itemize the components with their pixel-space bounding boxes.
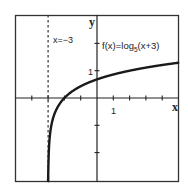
x-axis-label: x [172, 100, 178, 114]
function-label-arg: (x+3) [138, 40, 160, 51]
function-label: f(x)=log5(x+3) [102, 40, 160, 53]
x-tick-label-1: 1 [111, 106, 116, 116]
log-function-graph: y x 1 1 x=−3 f(x)=log5(x+3) [0, 0, 188, 191]
function-curve [48, 63, 178, 181]
y-tick-label-1: 1 [88, 67, 93, 77]
function-label-main: f(x)=log [102, 40, 134, 51]
y-axis-label: y [89, 15, 95, 29]
svg-text:f(x)=log5(x+3): f(x)=log5(x+3) [102, 40, 160, 53]
asymptote-label: x=−3 [53, 35, 73, 45]
